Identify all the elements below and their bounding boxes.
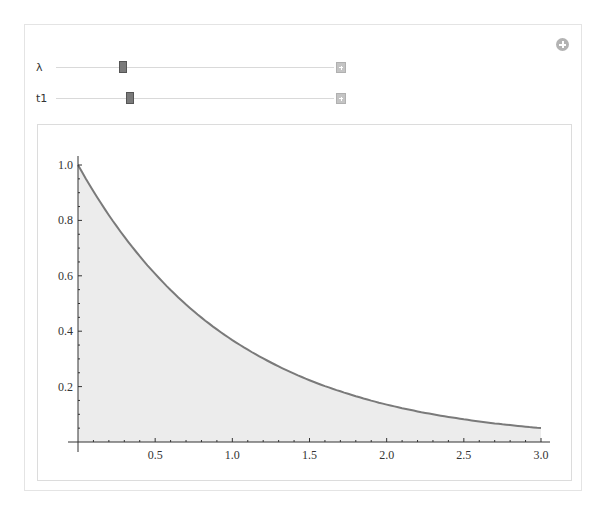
x-tick-label: 2.5 [456,448,471,462]
x-tick-label: 1.0 [225,448,240,462]
x-tick-label: 0.5 [148,448,163,462]
x-tick-label: 3.0 [534,448,549,462]
y-tick-label: 0.4 [58,324,73,338]
y-tick-label: 0.8 [58,213,73,227]
y-tick-label: 0.6 [58,269,73,283]
x-tick-label: 2.0 [379,448,394,462]
y-tick-label: 0.2 [58,380,73,394]
area-fill [78,165,541,442]
y-tick-label: 1.0 [58,158,73,172]
exponential-area-chart: 0.51.01.52.02.53.00.20.40.60.81.0 [0,0,604,515]
x-tick-label: 1.5 [302,448,317,462]
